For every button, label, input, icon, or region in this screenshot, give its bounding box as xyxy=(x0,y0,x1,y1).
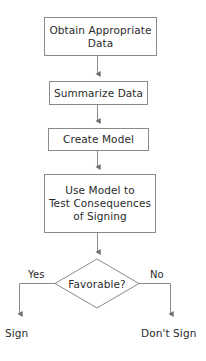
edge-label-no: No xyxy=(149,269,165,280)
terminal-label-sign: Sign xyxy=(5,327,28,339)
node-label-favorable: Favorable? xyxy=(68,278,126,290)
decision-node-favorable: Favorable? xyxy=(55,278,139,290)
process-node-obtain-data: Obtain Appropriate Data xyxy=(44,17,157,56)
connector-yes-to-sign xyxy=(20,284,56,315)
connector-no-to-dont-sign xyxy=(139,284,171,315)
node-label-create-model: Create Model xyxy=(63,133,134,146)
process-node-test-consequences: Use Model to Test Consequences of Signin… xyxy=(44,174,156,233)
edge-label-yes-text: Yes xyxy=(28,269,44,280)
node-label-obtain-data: Obtain Appropriate Data xyxy=(49,24,151,50)
edge-label-yes: Yes xyxy=(27,269,45,280)
edge-label-no-text: No xyxy=(150,269,164,280)
terminal-node-sign: Sign xyxy=(5,327,28,339)
process-node-create-model: Create Model xyxy=(48,128,149,151)
process-node-summarize-data: Summarize Data xyxy=(49,81,148,105)
flowchart-diagram: Obtain Appropriate Data Summarize Data C… xyxy=(0,0,206,361)
terminal-label-dont-sign: Don't Sign xyxy=(141,327,196,339)
node-label-test-consequences: Use Model to Test Consequences of Signin… xyxy=(49,184,151,223)
node-label-summarize-data: Summarize Data xyxy=(54,87,143,100)
terminal-node-dont-sign: Don't Sign xyxy=(141,327,196,339)
